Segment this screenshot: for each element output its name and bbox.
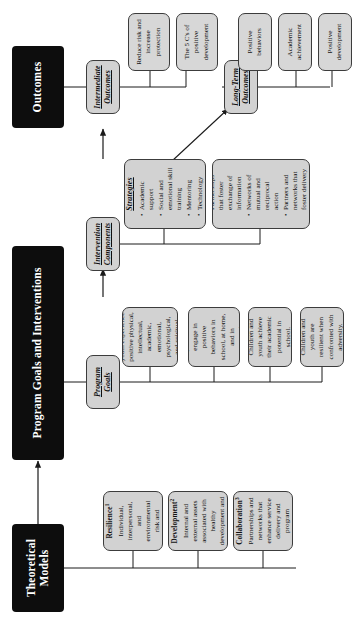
intervention-group-community-strategies: Community Strategies Partnerships that f… (212, 159, 310, 229)
intervention-group-child-and-youth-strategies: Child and Youth Strategies Academic supp… (124, 159, 206, 229)
header-theoretical-models: Theoretical Models (12, 524, 64, 612)
theoretical-model-body: Partnerships and networks that enhance s… (247, 496, 293, 546)
intervention-bullet: Networks of mutual and reciprocal action (245, 164, 280, 216)
long-term-outcome-text: Positive development (326, 18, 344, 66)
intermediate-outcome-text: Reduce risk and increase protection (135, 18, 162, 66)
intervention-group-bullet-list: Partnerships that foster exchange of inf… (212, 164, 310, 224)
long-term-outcomes-header-label: Long-Term Outcomes (231, 65, 251, 109)
long-term-outcome-box-2: Academic achievement (278, 13, 312, 71)
program-goal-box-2: Children and youth will engage in positi… (188, 307, 240, 367)
intervention-components-header-box: Intervention Components (86, 217, 120, 271)
long-term-outcome-text: Academic achievement (286, 18, 304, 66)
theoretical-model-title: Risk and Resilience1 (103, 496, 116, 546)
intermediate-outcome-box-1: Reduce risk and increase protection (128, 13, 170, 71)
intervention-bullet: Partners and networks that foster delive… (282, 164, 310, 216)
intervention-bullet: Mentoring (185, 164, 194, 216)
intervention-bullet: Technology training (196, 164, 206, 216)
long-term-outcome-box-3: Positive development (318, 13, 352, 71)
intermediate-outcomes-header-label: Intermediate Outcomes (93, 65, 113, 109)
long-term-outcome-text: Positive behaviors (246, 18, 264, 66)
intermediate-outcomes-header-box: Intermediate Outcomes (86, 60, 120, 114)
program-goal-box-1: Children and youth experience positive p… (122, 307, 178, 367)
header-theoretical-models-label: Theoretical Models (25, 528, 51, 608)
theoretical-model-title: Positive Youth Development2 (168, 496, 181, 546)
intermediate-outcome-box-2: The 5 C's of positive development (176, 13, 218, 71)
header-program-goals-and-interventions-label: Program Goals and Interventions (31, 267, 44, 438)
footnote-marker: 1 (104, 503, 110, 506)
program-goals-header-box: Program Goals (86, 355, 120, 409)
program-goal-text: Children and youth will engage in positi… (188, 312, 240, 362)
flowchart-canvas: Theoretical Models Program Goals and Int… (0, 0, 364, 637)
long-term-outcome-box-1: Positive behaviors (238, 13, 272, 71)
theoretical-model-title: Community Collaboration3 (233, 496, 246, 546)
theoretical-model-body: Internal and external assets associated … (182, 496, 228, 546)
theoretical-model-box-community-collaboration: Community Collaboration3 Partnerships an… (233, 491, 293, 551)
theoretical-model-box-positive-youth-development: Positive Youth Development2 Internal and… (168, 491, 228, 551)
program-goal-text: Children and youth achieve their academi… (248, 312, 292, 362)
program-goal-box-4: Children and youth are resilient when co… (300, 307, 344, 367)
program-goal-text: Children and youth experience positive p… (122, 312, 178, 362)
header-outcomes: Outcomes (12, 46, 64, 128)
program-goal-box-3: Children and youth achieve their academi… (248, 307, 292, 367)
theoretical-model-body: Individual, interpersonal, and environme… (117, 496, 163, 546)
header-outcomes-label: Outcomes (31, 62, 44, 113)
theoretical-model-box-risk-and-resilience: Risk and Resilience1 Individual, interpe… (103, 491, 163, 551)
intervention-group-bullet-list: Academic support Social and emotional sk… (138, 164, 206, 224)
intervention-bullet: Academic support (138, 164, 156, 216)
intervention-group-title: Child and Youth Strategies (124, 164, 135, 224)
intervention-bullet: Social and emotional skill training (157, 164, 184, 216)
footnote-marker: 3 (234, 497, 240, 500)
program-goal-text: Children and youth are resilient when co… (300, 312, 344, 362)
diagram-rotation-wrapper: Theoretical Models Program Goals and Int… (0, 0, 364, 637)
footnote-marker: 2 (169, 499, 175, 502)
intervention-bullet: Partnerships that foster exchange of inf… (212, 164, 244, 216)
intervention-components-header-label: Intervention Components (93, 222, 113, 266)
header-program-goals-and-interventions: Program Goals and Interventions (12, 246, 64, 460)
intermediate-outcome-text: The 5 C's of positive development (183, 18, 210, 66)
program-goals-header-label: Program Goals (93, 360, 113, 404)
